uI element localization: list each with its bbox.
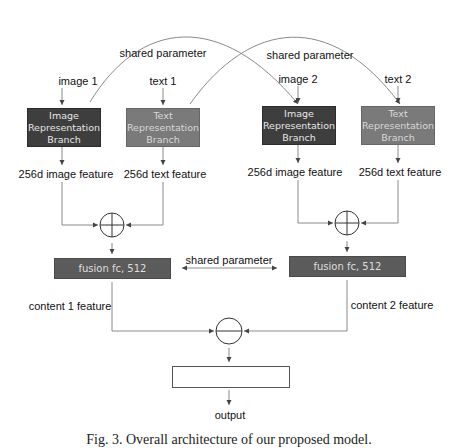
output-box (172, 366, 290, 388)
branch-line: Representation (263, 120, 335, 132)
branch-line: Branch (362, 132, 434, 144)
fusion-fc-left: fusion fc, 512 (54, 258, 171, 279)
text-feature-2: 256d text feature (359, 166, 442, 178)
branch-line: Representation (127, 122, 199, 134)
minus-operator-icon (216, 318, 242, 344)
plus-operator-icon (335, 211, 359, 235)
branch-line: Image (263, 108, 335, 120)
content-1-feature: content 1 feature (29, 300, 112, 312)
image-branch-1: Image Representation Branch (27, 108, 101, 147)
text-branch-2: Text Representation Branch (361, 106, 435, 145)
shared-parameter-label-middle: shared parameter (186, 254, 273, 266)
figure-caption: Fig. 3. Overall architecture of our prop… (86, 432, 371, 448)
branch-line: Branch (263, 132, 335, 144)
branch-line: Image (28, 110, 100, 122)
image-branch-2: Image Representation Branch (262, 106, 336, 145)
input-image-2: image 2 (278, 73, 317, 85)
branch-line: Branch (127, 134, 199, 146)
branch-line: Representation (362, 120, 434, 132)
image-feature-2: 256d image feature (248, 166, 343, 178)
output-label: output (215, 409, 246, 421)
input-text-2: text 2 (385, 73, 412, 85)
branch-line: Branch (28, 134, 100, 146)
plus-operator-icon (100, 213, 124, 237)
branch-line: Representation (28, 122, 100, 134)
shared-parameter-label-left: shared parameter (120, 47, 207, 59)
fusion-fc-right: fusion fc, 512 (289, 256, 406, 277)
image-feature-1: 256d image feature (19, 168, 114, 180)
content-2-feature: content 2 feature (351, 299, 434, 311)
shared-parameter-label-right: shared parameter (267, 49, 354, 61)
branch-line: Text (362, 108, 434, 120)
text-branch-1: Text Representation Branch (126, 108, 200, 147)
branch-line: Text (127, 110, 199, 122)
input-text-1: text 1 (150, 75, 177, 87)
text-feature-1: 256d text feature (124, 168, 207, 180)
input-image-1: image 1 (58, 75, 97, 87)
